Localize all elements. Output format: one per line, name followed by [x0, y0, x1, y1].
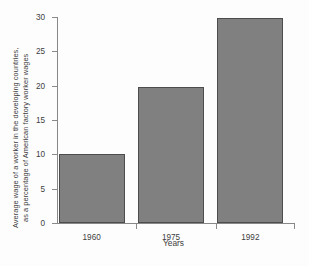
y-axis-tick-label: 25 — [36, 47, 45, 56]
y-axis-tick: 0 — [52, 223, 57, 224]
x-axis-line — [57, 223, 295, 224]
y-axis-tick-label: 20 — [36, 81, 45, 90]
x-axis-tick — [216, 224, 217, 229]
y-axis-tick-label: 30 — [36, 13, 45, 22]
y-axis-title-line-2: as a percentage of American factory work… — [21, 54, 30, 222]
bar-1992 — [217, 18, 283, 223]
y-axis-tick: 10 — [52, 154, 57, 155]
y-axis-tick-label: 5 — [40, 184, 45, 193]
x-axis-tick — [136, 224, 137, 229]
bar-1975 — [138, 87, 204, 223]
x-axis-title-text: Years — [163, 238, 184, 248]
x-axis-title: Years — [0, 238, 309, 248]
y-axis-tick: 20 — [52, 86, 57, 87]
y-axis-tick-label: 10 — [36, 150, 45, 159]
y-axis-tick: 30 — [52, 17, 57, 18]
y-axis-tick: 5 — [52, 189, 57, 190]
y-axis-title: Average wage of a worker in the developi… — [0, 0, 34, 232]
y-axis-tick: 15 — [52, 120, 57, 121]
y-axis-tick: 25 — [52, 51, 57, 52]
bar-1960 — [59, 154, 125, 223]
y-axis-title-line-1: Average wage of a worker in the developi… — [11, 48, 20, 228]
y-axis-tick-label: 15 — [36, 116, 45, 125]
bar-chart-figure: Average wage of a worker in the developi… — [0, 0, 309, 266]
plot-area: 051015202530196019751992 — [57, 17, 295, 223]
x-axis-tick — [294, 224, 295, 229]
y-axis-tick-label: 0 — [40, 219, 45, 228]
